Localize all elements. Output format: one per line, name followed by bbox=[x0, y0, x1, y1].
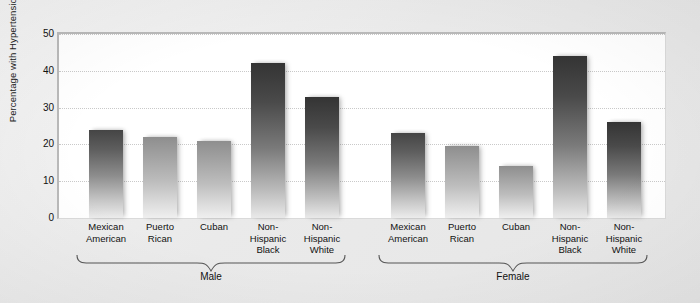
hypertension-bar-chart-figure: Percentage with Hypertension 01020304050… bbox=[0, 0, 700, 303]
category-label: Non-HispanicWhite bbox=[292, 221, 352, 256]
category-label: MexicanAmerican bbox=[76, 221, 136, 244]
category-label-line: White bbox=[292, 244, 352, 256]
bar bbox=[499, 166, 533, 218]
gridline bbox=[59, 34, 665, 35]
bar bbox=[445, 146, 479, 218]
bar bbox=[607, 122, 641, 218]
category-label: Non-HispanicWhite bbox=[594, 221, 654, 256]
group-label-female: Female bbox=[473, 271, 553, 282]
category-label-line: Non- bbox=[238, 221, 298, 233]
bar bbox=[143, 137, 177, 218]
brace-svg bbox=[59, 255, 665, 285]
brace-female-path bbox=[379, 255, 647, 271]
category-axis-labels: MexicanAmericanPuertoRicanCubanNon-Hispa… bbox=[59, 221, 665, 257]
category-label-line: Cuban bbox=[184, 221, 244, 233]
bar bbox=[197, 141, 231, 218]
bar bbox=[251, 63, 285, 218]
category-label-line: Non- bbox=[540, 221, 600, 233]
y-tick-label: 10 bbox=[28, 176, 54, 186]
category-label: Cuban bbox=[486, 221, 546, 233]
category-label-line: Mexican bbox=[76, 221, 136, 233]
category-label-line: Black bbox=[238, 244, 298, 256]
category-label: Non-HispanicBlack bbox=[238, 221, 298, 256]
category-label-line: Puerto bbox=[432, 221, 492, 233]
brace-male-path bbox=[77, 255, 345, 271]
category-label: MexicanAmerican bbox=[378, 221, 438, 244]
group-label-male: Male bbox=[171, 271, 251, 282]
category-label-line: Rican bbox=[432, 233, 492, 245]
plot-area bbox=[59, 34, 665, 218]
category-label-line: Mexican bbox=[378, 221, 438, 233]
bar bbox=[89, 130, 123, 218]
category-label: PuertoRican bbox=[432, 221, 492, 244]
category-label: PuertoRican bbox=[130, 221, 190, 244]
y-tick-label: 50 bbox=[28, 29, 54, 39]
category-label-line: American bbox=[76, 233, 136, 245]
bar bbox=[391, 133, 425, 218]
category-label-line: Hispanic bbox=[292, 233, 352, 245]
category-label-line: Black bbox=[540, 244, 600, 256]
y-axis-tick-labels: 01020304050 bbox=[22, 32, 54, 219]
category-label-line: Hispanic bbox=[540, 233, 600, 245]
group-braces: Male Female bbox=[59, 255, 665, 285]
category-label-line: Non- bbox=[292, 221, 352, 233]
y-tick-label: 0 bbox=[28, 213, 54, 223]
bar bbox=[553, 56, 587, 218]
y-tick-label: 40 bbox=[28, 66, 54, 76]
category-label-line: American bbox=[378, 233, 438, 245]
category-label-line: Rican bbox=[130, 233, 190, 245]
category-label-line: Puerto bbox=[130, 221, 190, 233]
y-axis-title: Percentage with Hypertension bbox=[7, 0, 18, 158]
category-label-line: Non- bbox=[594, 221, 654, 233]
category-label: Non-HispanicBlack bbox=[540, 221, 600, 256]
category-label-line: Hispanic bbox=[594, 233, 654, 245]
category-label-line: Cuban bbox=[486, 221, 546, 233]
bar bbox=[305, 97, 339, 218]
y-axis-title-container: Percentage with Hypertension bbox=[8, 32, 22, 222]
y-tick-label: 20 bbox=[28, 139, 54, 149]
category-label-line: Hispanic bbox=[238, 233, 298, 245]
y-tick-label: 30 bbox=[28, 103, 54, 113]
category-label: Cuban bbox=[184, 221, 244, 233]
category-label-line: White bbox=[594, 244, 654, 256]
